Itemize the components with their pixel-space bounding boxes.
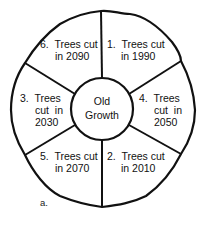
- segment-2: 2. Trees cut in 2010: [107, 150, 165, 174]
- segment-5: 5. Trees cut in 2070: [40, 150, 98, 174]
- segment-4: 4. Trees cut in 2050: [139, 92, 182, 128]
- segment-3-line3: 2030: [35, 116, 59, 128]
- segment-2-line2: in 2010: [121, 162, 156, 174]
- segment-3: 3. Trees cut in 2030: [20, 92, 63, 128]
- segment-3-line2: cut in: [35, 104, 63, 116]
- segment-6: 6. Trees cut in 2090: [40, 38, 98, 62]
- segment-1: 1. Trees cut in 1990: [107, 38, 165, 62]
- segment-6-line1: 6. Trees cut: [40, 38, 98, 50]
- spoke-top: [101, 11, 102, 78]
- center-label-line2: Growth: [85, 109, 119, 121]
- center-label-line1: Old: [94, 95, 111, 107]
- segment-3-line1: 3. Trees: [20, 92, 61, 104]
- segment-6-line2: in 2090: [55, 50, 90, 62]
- spoke-upper-right: [129, 61, 181, 94]
- spoke-upper-left: [25, 63, 75, 94]
- segment-4-line2: cut in: [154, 104, 182, 116]
- segment-1-line2: in 1990: [121, 50, 156, 62]
- segment-5-line1: 5. Trees cut: [40, 150, 98, 162]
- forest-rotation-diagram: Old Growth 6. Trees cut in 2090 1. Trees…: [0, 0, 208, 225]
- segment-4-line1: 4. Trees: [139, 92, 180, 104]
- figure-caption: a.: [40, 197, 48, 208]
- segment-5-line2: in 2070: [55, 162, 90, 174]
- segment-1-line1: 1. Trees cut: [107, 38, 165, 50]
- segment-4-line3: 2050: [154, 116, 178, 128]
- segment-2-line1: 2. Trees cut: [107, 150, 165, 162]
